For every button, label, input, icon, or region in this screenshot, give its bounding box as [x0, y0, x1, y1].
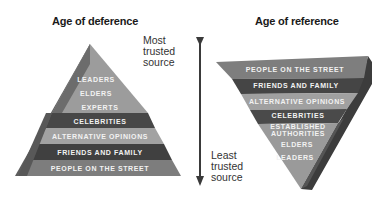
right-level-5b: AUTHORITIES: [271, 130, 325, 137]
left-level-5: ALTERNATIVE OPINIONS: [52, 133, 148, 140]
right-level-6: ELDERS: [281, 141, 313, 148]
diagram-canvas: LEADERS ELDERS EXPERTS CELEBRITIES ALTER…: [0, 0, 386, 199]
left-level-3: EXPERTS: [82, 104, 119, 111]
left-level-7: PEOPLE ON THE STREET: [51, 165, 149, 172]
left-level-4: CELEBRITIES: [74, 118, 127, 125]
left-level-2: ELDERS: [80, 90, 112, 97]
left-level-6: FRIENDS AND FAMILY: [57, 149, 142, 156]
right-level-3: ALTERNATIVE OPINIONS: [249, 98, 345, 105]
most-trusted-line-3: source: [143, 57, 175, 68]
most-trusted-label: Most trusted source: [143, 35, 175, 68]
least-trusted-label: Least trusted source: [211, 150, 243, 183]
left-level-1: LEADERS: [77, 76, 115, 83]
least-trusted-line-3: source: [211, 172, 243, 183]
right-level-4: CELEBRITIES: [272, 112, 325, 119]
right-level-7: LEADERS: [276, 154, 314, 161]
right-level-1: PEOPLE ON THE STREET: [246, 66, 344, 73]
trust-arrow: [196, 37, 204, 186]
right-level-2: FRIENDS AND FAMILY: [253, 82, 338, 89]
right-level-5a: ESTABLISHED: [270, 123, 325, 130]
